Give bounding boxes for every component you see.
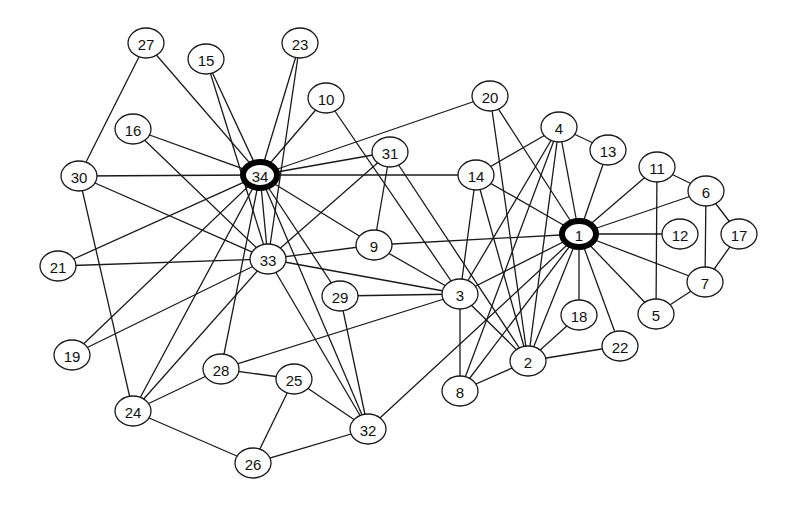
node-label: 12 (672, 227, 689, 244)
node-7: 7 (687, 267, 723, 297)
node-label: 17 (731, 227, 748, 244)
edge-1-2 (528, 234, 579, 361)
node-label: 27 (138, 36, 155, 53)
node-6: 6 (688, 176, 724, 206)
node-label: 13 (600, 143, 617, 160)
network-diagram: 1234567891011121314151617181920212223242… (0, 0, 786, 506)
node-21: 21 (40, 251, 76, 281)
node-17: 17 (721, 219, 757, 249)
node-26: 26 (235, 448, 271, 478)
node-11: 11 (639, 152, 675, 182)
node-label: 14 (468, 168, 485, 185)
node-label: 21 (50, 259, 67, 276)
node-9: 9 (356, 230, 392, 260)
node-label: 31 (382, 145, 399, 162)
edge-3-33 (268, 259, 460, 294)
node-20: 20 (472, 81, 508, 111)
node-label: 34 (252, 168, 269, 185)
edge-24-33 (133, 259, 268, 411)
edge-24-26 (133, 411, 253, 463)
edge-32-33 (268, 259, 368, 429)
edge-27-30 (79, 43, 146, 176)
node-2: 2 (510, 346, 546, 376)
node-29: 29 (322, 281, 358, 311)
node-label: 4 (555, 120, 563, 137)
node-label: 10 (318, 91, 335, 108)
edge-2-14 (476, 175, 528, 361)
node-19: 19 (54, 340, 90, 370)
node-label: 7 (701, 275, 709, 292)
edge-15-34 (206, 59, 260, 175)
node-8: 8 (442, 376, 478, 406)
node-33: 33 (250, 244, 286, 274)
edge-2-31 (390, 152, 528, 361)
graph-svg: 1234567891011121314151617181920212223242… (0, 0, 786, 506)
node-label: 24 (125, 404, 142, 421)
node-label: 16 (125, 122, 142, 139)
node-label: 6 (702, 184, 710, 201)
node-label: 20 (482, 89, 499, 106)
node-label: 33 (260, 252, 277, 269)
node-27: 27 (128, 28, 164, 58)
node-4: 4 (541, 112, 577, 142)
node-12: 12 (662, 219, 698, 249)
edge-28-34 (221, 175, 260, 369)
node-15: 15 (188, 44, 224, 74)
node-label: 8 (456, 384, 464, 401)
node-label: 23 (292, 36, 309, 53)
node-32: 32 (350, 414, 386, 444)
node-label: 3 (456, 287, 464, 304)
node-label: 19 (64, 348, 81, 365)
node-28: 28 (203, 354, 239, 384)
node-label: 1 (575, 227, 583, 244)
node-23: 23 (282, 28, 318, 58)
edge-23-34 (260, 43, 300, 175)
node-label: 29 (332, 289, 349, 306)
node-34: 34 (243, 162, 277, 188)
node-label: 9 (370, 238, 378, 255)
nodes-layer: 1234567891011121314151617181920212223242… (40, 28, 757, 478)
node-5: 5 (638, 299, 674, 329)
edge-1-9 (374, 234, 579, 245)
node-label: 30 (71, 169, 88, 186)
node-24: 24 (115, 396, 151, 426)
edge-2-20 (490, 96, 528, 361)
edges-layer (58, 43, 739, 463)
node-label: 26 (245, 456, 262, 473)
edge-5-11 (656, 167, 657, 314)
node-1: 1 (562, 221, 596, 247)
node-3: 3 (442, 279, 478, 309)
edge-30-33 (79, 176, 268, 259)
edge-24-30 (79, 176, 133, 411)
node-label: 5 (652, 307, 660, 324)
edge-21-33 (58, 259, 268, 266)
node-label: 28 (213, 362, 230, 379)
edge-3-10 (326, 98, 460, 294)
node-label: 11 (649, 160, 665, 177)
edge-30-34 (79, 175, 260, 176)
edge-9-34 (260, 175, 374, 245)
node-18: 18 (561, 300, 597, 330)
node-label: 22 (612, 339, 629, 356)
node-10: 10 (308, 83, 344, 113)
node-label: 32 (360, 422, 377, 439)
node-30: 30 (61, 161, 97, 191)
node-25: 25 (276, 364, 312, 394)
node-16: 16 (115, 114, 151, 144)
node-14: 14 (458, 160, 494, 190)
node-31: 31 (372, 137, 408, 167)
edge-29-32 (340, 296, 368, 429)
node-label: 15 (198, 52, 215, 69)
node-13: 13 (590, 135, 626, 165)
node-label: 18 (571, 308, 588, 325)
node-label: 2 (524, 354, 532, 371)
node-label: 25 (286, 372, 303, 389)
edge-3-14 (460, 175, 476, 294)
edge-24-34 (133, 175, 260, 411)
node-22: 22 (602, 331, 638, 361)
edge-23-33 (268, 43, 300, 259)
